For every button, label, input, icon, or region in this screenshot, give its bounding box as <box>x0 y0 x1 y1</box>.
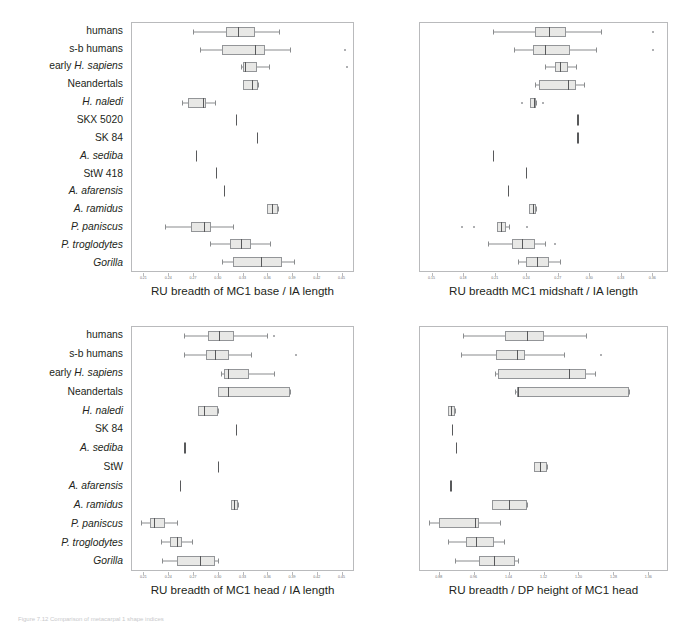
single-specimen-marker <box>452 424 453 435</box>
median-line <box>494 556 495 566</box>
whisker-cap <box>429 521 430 526</box>
whisker-cap <box>564 353 565 358</box>
box <box>498 369 586 379</box>
median-line <box>451 406 452 416</box>
x-axis-tick-label: 0.88 <box>435 575 442 579</box>
single-specimen-marker <box>450 480 451 491</box>
x-axis-tick-label: 1.12 <box>540 575 547 579</box>
box <box>439 518 480 528</box>
whisker-cap <box>586 334 587 339</box>
box <box>466 537 493 547</box>
whisker-cap <box>595 371 596 376</box>
whisker-cap <box>518 558 519 563</box>
whisker-cap <box>527 502 528 507</box>
plot-area <box>419 326 668 571</box>
whisker-cap <box>629 390 630 395</box>
whisker-cap <box>463 334 464 339</box>
whisker-cap <box>495 371 496 376</box>
median-line <box>540 462 541 472</box>
median-line <box>517 350 518 360</box>
x-axis-tick-label: 1.36 <box>645 575 652 579</box>
x-axis-tick-label: 1.28 <box>610 575 617 579</box>
median-line <box>569 369 570 379</box>
whisker-cap <box>455 558 456 563</box>
box <box>479 556 515 566</box>
x-axis-title: RU breadth / DP height of MC1 head <box>419 583 668 596</box>
whisker-cap <box>461 353 462 358</box>
whisker-cap <box>547 465 548 470</box>
box <box>517 387 630 397</box>
single-specimen-marker <box>456 443 457 454</box>
whisker-cap <box>504 539 505 544</box>
whisker-cap <box>500 521 501 526</box>
whisker-cap <box>448 539 449 544</box>
box <box>505 331 545 341</box>
panel-bottom-right: 0.880.961.041.121.201.281.36RU breadth /… <box>0 0 673 625</box>
x-axis-tick-label: 0.96 <box>470 575 477 579</box>
median-line <box>527 331 528 341</box>
outlier-point <box>600 354 602 356</box>
median-line <box>476 537 477 547</box>
median-line <box>509 500 510 510</box>
median-line <box>518 387 519 397</box>
figure-root: Figure 7.12 Comparison of metacarpal 1 s… <box>0 0 673 625</box>
median-line <box>475 518 476 528</box>
box <box>496 350 525 360</box>
whisker-cap <box>455 409 456 414</box>
x-axis-tick-label: 1.20 <box>575 575 582 579</box>
x-axis-tick-label: 1.04 <box>505 575 512 579</box>
